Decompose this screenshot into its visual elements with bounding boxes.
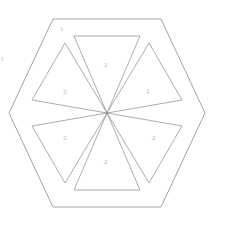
figure-canvas: 2 2 2 2 2 2 1 r xyxy=(0,0,226,226)
triangle-lower-left xyxy=(32,113,107,183)
hexagon-diagram xyxy=(0,0,226,226)
triangle-upper-left xyxy=(32,43,107,113)
left-margin-mark: r xyxy=(1,55,4,63)
triangle-upper-right xyxy=(107,43,182,113)
triangle-lower-right xyxy=(107,113,182,183)
triangle-lower-right-label: 2 xyxy=(152,135,156,142)
corner-label-1: 1 xyxy=(60,26,64,33)
triangle-upper-left-label: 2 xyxy=(63,89,67,96)
triangle-bottom-label: 2 xyxy=(104,159,108,166)
triangle-upper-right-label: 2 xyxy=(146,88,150,95)
triangle-lower-left-label: 2 xyxy=(63,135,67,142)
triangle-top-label: 2 xyxy=(104,62,108,69)
